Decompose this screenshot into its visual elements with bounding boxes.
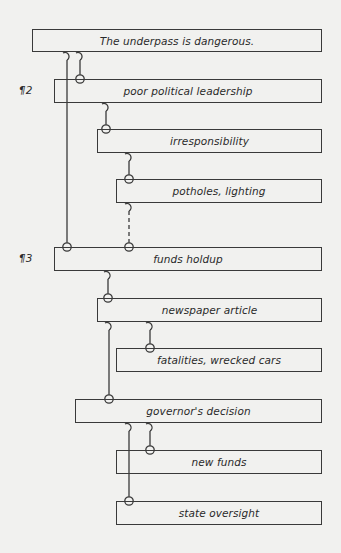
hook-icon [125, 153, 131, 161]
node-governors-decision: governor's decision [75, 399, 322, 423]
hook-icon [102, 103, 108, 111]
hook-icon [146, 322, 152, 330]
connector-n4-n5 [125, 203, 133, 251]
node-new-funds: new funds [116, 450, 322, 474]
node-label: funds holdup [153, 253, 223, 265]
node-label: governor's decision [146, 405, 250, 417]
node-thesis: The underpass is dangerous. [32, 29, 322, 52]
node-newspaper-article: newspaper article [97, 298, 322, 322]
node-label: The underpass is dangerous. [100, 35, 255, 47]
node-irresponsibility: irresponsibility [97, 129, 322, 153]
hook-icon [76, 52, 82, 60]
hook-icon [125, 203, 131, 211]
node-label: state oversight [179, 507, 260, 519]
node-label: irresponsibility [170, 135, 249, 147]
node-label: new funds [191, 456, 246, 468]
node-label: newspaper article [162, 304, 258, 316]
node-fatalities-wrecked-cars: fatalities, wrecked cars [116, 348, 322, 372]
hook-icon [125, 423, 131, 431]
node-label: fatalities, wrecked cars [157, 354, 281, 366]
node-funds-holdup: funds holdup [54, 247, 322, 271]
hook-icon [146, 423, 152, 431]
paragraph-mark-3: ¶3 [19, 252, 32, 264]
hook-icon [63, 52, 69, 60]
node-label: potholes, lighting [172, 185, 265, 197]
node-potholes-lighting: potholes, lighting [116, 179, 322, 203]
node-state-oversight: state oversight [116, 501, 322, 525]
argument-tree-diagram: ¶2 ¶3 The underpass is dangerous. poor p… [0, 0, 341, 553]
node-label: poor political leadership [123, 85, 252, 97]
node-poor-political-leadership: poor political leadership [54, 79, 322, 103]
hook-icon [105, 322, 111, 330]
connector-n6-n8 [105, 322, 113, 403]
paragraph-mark-2: ¶2 [19, 84, 32, 96]
hook-icon [104, 271, 110, 279]
